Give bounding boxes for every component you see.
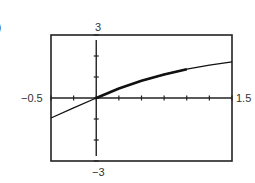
function-curve-highlight <box>96 69 187 98</box>
function-curve <box>51 62 232 118</box>
graph-plot <box>0 0 255 183</box>
